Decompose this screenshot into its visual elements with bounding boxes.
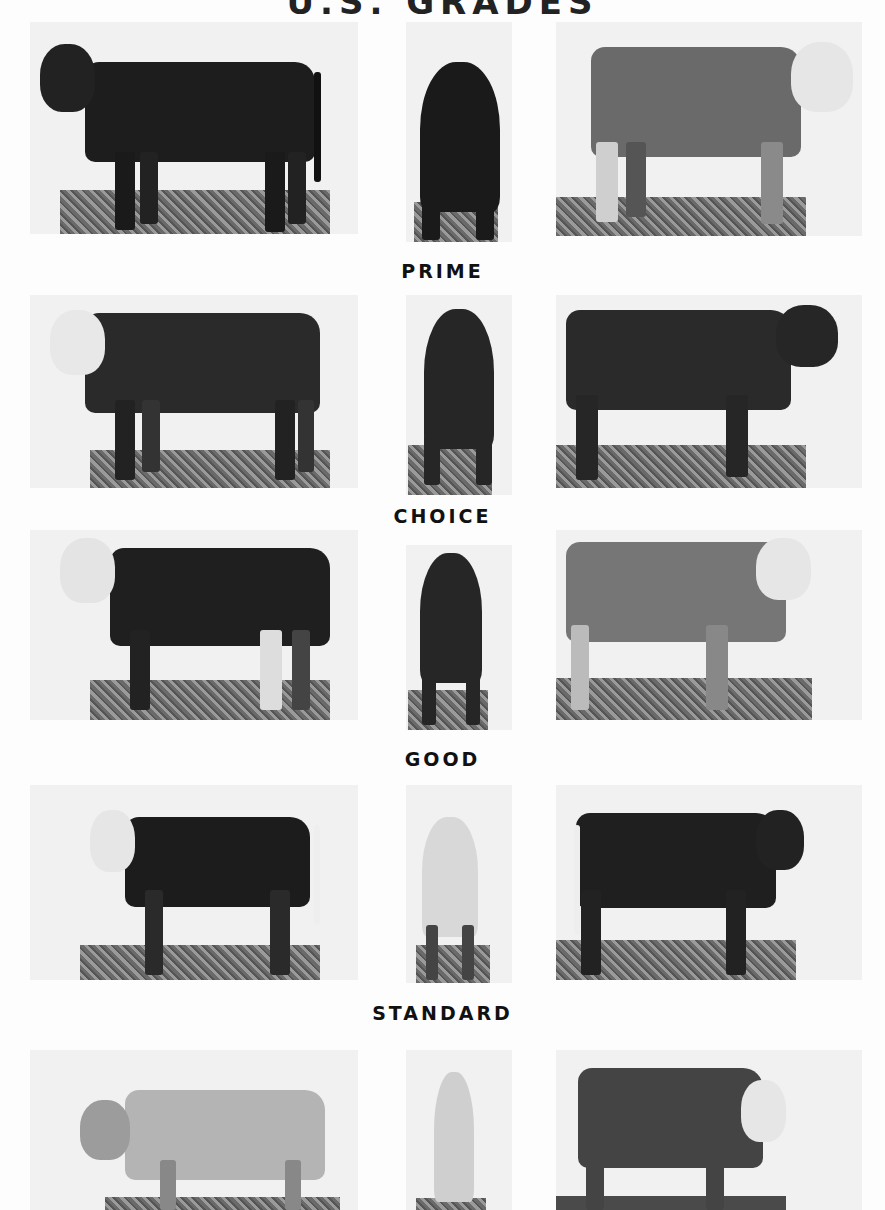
- calf-photo-side-left: [30, 530, 358, 720]
- calf-photo-rear: [406, 545, 512, 730]
- calf-photo-side-right: [556, 295, 862, 488]
- calf-photo-rear: [406, 22, 512, 242]
- calf-photo-rear: [406, 1050, 512, 1210]
- grade-label-choice: CHOICE: [0, 505, 885, 527]
- calf-photo-rear: [406, 785, 512, 983]
- calf-photo-side-left: [30, 22, 358, 234]
- calf-photo-side-right: [556, 530, 862, 720]
- grade-label-standard: STANDARD: [0, 1002, 885, 1024]
- calf-photo-side-right: [556, 785, 862, 980]
- calf-photo-side-left: [30, 295, 358, 488]
- calf-photo-side-left: [30, 785, 358, 980]
- calf-photo-side-right: [556, 1050, 862, 1210]
- calf-photo-side-left: [30, 1050, 358, 1210]
- grade-label-prime: PRIME: [0, 260, 885, 282]
- page-title: U.S. GRADES: [0, 0, 885, 22]
- grade-label-good: GOOD: [0, 748, 885, 770]
- calf-photo-rear: [406, 295, 512, 495]
- calf-photo-side-right: [556, 22, 862, 236]
